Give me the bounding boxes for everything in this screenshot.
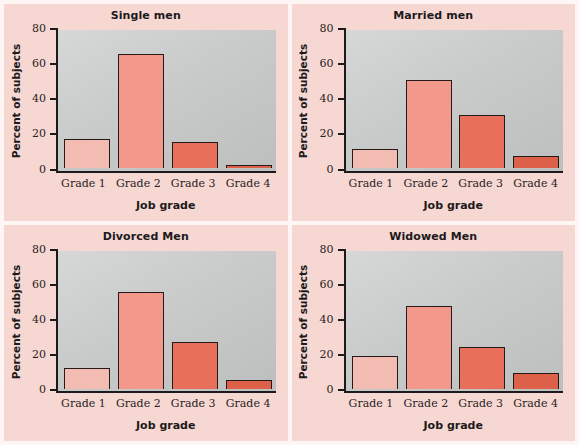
bar-slot xyxy=(348,251,402,389)
plot-area-wrapper: 020406080 xyxy=(56,251,276,394)
x-axis-tick-label: Grade 4 xyxy=(508,397,563,413)
x-axis-tick-label: Grade 2 xyxy=(398,397,453,413)
y-axis-tick-label: 60 xyxy=(32,278,46,291)
y-axis-tick: 20 xyxy=(338,133,346,135)
x-axis-tick-labels: Grade 1Grade 2Grade 3Grade 4 xyxy=(344,177,564,193)
bar-slot xyxy=(222,30,276,168)
y-axis-title-text: Percent of subjects xyxy=(298,265,310,379)
plot-area: 020406080 xyxy=(344,30,564,173)
y-axis-tick: 60 xyxy=(50,63,58,65)
bar-slot xyxy=(402,251,456,389)
x-axis-tick-label: Grade 1 xyxy=(344,177,399,193)
plot-area-wrapper: 020406080 xyxy=(344,30,564,173)
bar xyxy=(226,380,272,389)
plot-area: 020406080 xyxy=(56,251,276,394)
y-axis-tick: 60 xyxy=(338,63,346,65)
bar xyxy=(118,54,164,168)
y-axis-tick-label: 40 xyxy=(32,92,46,105)
y-axis-tick-label: 0 xyxy=(39,163,46,176)
plot-area: 020406080 xyxy=(344,251,564,394)
bar xyxy=(406,80,452,168)
x-axis-title: Job grade xyxy=(344,199,564,212)
y-axis-title: Percent of subjects xyxy=(296,30,312,173)
x-axis-tick-label: Grade 2 xyxy=(398,177,453,193)
y-axis-tick-label: 20 xyxy=(320,348,334,361)
y-axis-tick-label: 20 xyxy=(32,127,46,140)
panel-grid: Single menPercent of subjects020406080Gr… xyxy=(0,0,579,445)
y-axis-tick-label: 40 xyxy=(32,313,46,326)
bar xyxy=(406,306,452,389)
y-axis-tick-label: 80 xyxy=(320,22,334,35)
bar-series xyxy=(348,30,563,168)
y-axis-tick-label: 20 xyxy=(320,127,334,140)
y-axis-tick: 0 xyxy=(50,389,58,391)
x-axis-tick-label: Grade 1 xyxy=(56,397,111,413)
y-axis-tick-label: 0 xyxy=(327,163,334,176)
y-axis-tick: 20 xyxy=(50,354,58,356)
bar xyxy=(352,356,398,389)
chart-panel: Married menPercent of subjects020406080G… xyxy=(292,4,576,221)
bar-series xyxy=(348,251,563,389)
y-axis-title-text: Percent of subjects xyxy=(10,44,22,158)
y-axis-tick-label: 20 xyxy=(32,348,46,361)
plot-area: 020406080 xyxy=(56,30,276,173)
y-axis-tick-label: 80 xyxy=(32,243,46,256)
y-axis-tick: 40 xyxy=(338,98,346,100)
bar xyxy=(64,139,110,168)
y-axis-tick: 60 xyxy=(338,284,346,286)
x-axis-tick-label: Grade 3 xyxy=(453,177,508,193)
bar-slot xyxy=(348,30,402,168)
chart-panel: Single menPercent of subjects020406080Gr… xyxy=(4,4,288,221)
bar-slot xyxy=(402,30,456,168)
x-axis-tick-label: Grade 2 xyxy=(111,177,166,193)
panel-title: Married men xyxy=(292,9,576,22)
x-axis-tick-labels: Grade 1Grade 2Grade 3Grade 4 xyxy=(344,397,564,413)
x-axis-tick-label: Grade 1 xyxy=(56,177,111,193)
y-axis-tick: 40 xyxy=(50,98,58,100)
y-axis-title-text: Percent of subjects xyxy=(298,44,310,158)
figure-canvas: Single menPercent of subjects020406080Gr… xyxy=(0,0,579,445)
panel-title: Divorced Men xyxy=(4,230,288,243)
x-axis-tick-label: Grade 3 xyxy=(166,177,221,193)
bar xyxy=(226,165,272,168)
y-axis-tick: 0 xyxy=(338,169,346,171)
bar xyxy=(352,149,398,168)
y-axis-tick: 40 xyxy=(338,319,346,321)
bar-slot xyxy=(168,251,222,389)
y-axis-tick-label: 60 xyxy=(320,57,334,70)
bar xyxy=(172,142,218,168)
y-axis-tick-label: 80 xyxy=(320,243,334,256)
y-axis-tick-label: 0 xyxy=(39,383,46,396)
panel-title: Widowed Men xyxy=(292,230,576,243)
y-axis-tick: 40 xyxy=(50,319,58,321)
y-axis-title: Percent of subjects xyxy=(8,30,24,173)
y-axis-tick: 20 xyxy=(50,133,58,135)
y-axis-tick: 0 xyxy=(338,389,346,391)
bar xyxy=(64,368,110,389)
plot-area-wrapper: 020406080 xyxy=(56,30,276,173)
y-axis-tick-label: 60 xyxy=(320,278,334,291)
bar xyxy=(172,342,218,389)
y-axis-tick: 80 xyxy=(338,28,346,30)
y-axis-tick-label: 80 xyxy=(32,22,46,35)
y-axis-tick-label: 0 xyxy=(327,383,334,396)
x-axis-tick-label: Grade 3 xyxy=(166,397,221,413)
y-axis-title: Percent of subjects xyxy=(296,251,312,394)
x-axis-tick-labels: Grade 1Grade 2Grade 3Grade 4 xyxy=(56,397,276,413)
bar xyxy=(513,156,559,168)
bar-series xyxy=(61,251,276,389)
bar xyxy=(513,373,559,389)
bar-slot xyxy=(509,251,563,389)
x-axis-tick-label: Grade 4 xyxy=(221,177,276,193)
x-axis-title: Job grade xyxy=(56,199,276,212)
y-axis-tick: 80 xyxy=(50,249,58,251)
chart-panel: Divorced MenPercent of subjects020406080… xyxy=(4,225,288,442)
x-axis-title: Job grade xyxy=(56,419,276,432)
bar xyxy=(118,292,164,389)
y-axis-tick-label: 40 xyxy=(320,313,334,326)
bar-slot xyxy=(168,30,222,168)
y-axis-tick: 80 xyxy=(50,28,58,30)
y-axis-tick: 60 xyxy=(50,284,58,286)
plot-area-wrapper: 020406080 xyxy=(344,251,564,394)
y-axis-tick-label: 60 xyxy=(32,57,46,70)
